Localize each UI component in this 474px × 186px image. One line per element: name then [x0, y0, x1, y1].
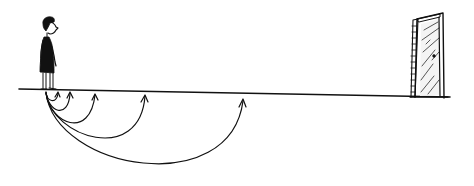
- person-legs: [43, 73, 53, 89]
- door-knob: [433, 55, 436, 58]
- arrow-4: [46, 93, 148, 138]
- ground-line: [19, 89, 450, 97]
- door: [410, 13, 448, 98]
- arrow-5: [46, 93, 246, 164]
- arrow-group: [46, 92, 246, 164]
- door-panel: [420, 19, 440, 96]
- person-figure: [40, 17, 58, 89]
- person-hair: [43, 17, 55, 31]
- illustration-canvas: Cartoon of a person standing on a ground…: [0, 0, 474, 186]
- illustration-svg: [0, 0, 474, 186]
